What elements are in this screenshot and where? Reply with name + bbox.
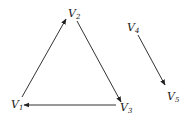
- edge-v4-to-v5: [138, 35, 165, 85]
- edge-v2-to-v3: [77, 21, 121, 102]
- node-label-v2: V2: [68, 7, 81, 21]
- directed-graph: V1V2V3V4V5: [0, 0, 187, 121]
- node-label-v1: V1: [11, 98, 23, 112]
- node-label-v3: V3: [120, 101, 133, 115]
- node-label-v4: V4: [127, 21, 139, 35]
- node-label-v5: V5: [167, 90, 180, 104]
- edge-v1-to-v2: [22, 19, 66, 97]
